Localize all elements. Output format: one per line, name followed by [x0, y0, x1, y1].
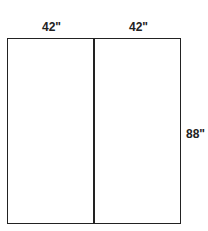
- left-width-label: 42": [42, 20, 61, 34]
- height-label: 88": [186, 127, 205, 141]
- center-divider: [93, 38, 95, 224]
- right-width-label: 42": [129, 20, 148, 34]
